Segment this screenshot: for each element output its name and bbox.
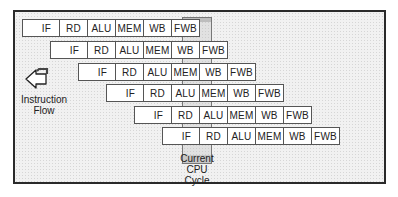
stage-cell-alu: ALU bbox=[115, 41, 144, 59]
stage-cell-wb: WB bbox=[227, 84, 256, 102]
stage-cell-wb: WB bbox=[199, 63, 228, 81]
stage-cell-if: IF bbox=[50, 41, 88, 59]
pipeline-row: IFRDALUMEMWBFWB bbox=[78, 63, 256, 81]
stage-cell-fwb: FWB bbox=[227, 63, 256, 81]
stage-cell-fwb: FWB bbox=[311, 127, 340, 145]
pipeline-row: IFRDALUMEMWBFWB bbox=[162, 127, 340, 145]
stage-cell-alu: ALU bbox=[171, 84, 200, 102]
stage-cell-mem: MEM bbox=[171, 63, 200, 81]
stage-cell-if: IF bbox=[134, 106, 172, 124]
stage-cell-alu: ALU bbox=[87, 19, 116, 37]
pipeline-row: IFRDALUMEMWBFWB bbox=[22, 19, 200, 37]
instruction-flow-label-line1: Instruction bbox=[16, 94, 72, 105]
current-cycle-label-line2: CPU bbox=[172, 164, 222, 175]
stage-cell-if: IF bbox=[106, 84, 144, 102]
pipeline-row: IFRDALUMEMWBFWB bbox=[50, 41, 228, 59]
stage-cell-fwb: FWB bbox=[171, 19, 200, 37]
stage-cell-fwb: FWB bbox=[199, 41, 228, 59]
instruction-flow-label-line2: Flow bbox=[16, 105, 72, 116]
stage-cell-alu: ALU bbox=[227, 127, 256, 145]
stage-cell-wb: WB bbox=[255, 106, 284, 124]
stage-cell-rd: RD bbox=[143, 84, 172, 102]
stage-cell-if: IF bbox=[78, 63, 116, 81]
stage-cell-rd: RD bbox=[87, 41, 116, 59]
stage-cell-wb: WB bbox=[171, 41, 200, 59]
stage-cell-if: IF bbox=[22, 19, 60, 37]
current-cycle-label-line1: Current bbox=[172, 153, 222, 164]
stage-cell-wb: WB bbox=[143, 19, 172, 37]
stage-cell-rd: RD bbox=[59, 19, 88, 37]
stage-cell-mem: MEM bbox=[143, 41, 172, 59]
stage-cell-rd: RD bbox=[115, 63, 144, 81]
stage-cell-mem: MEM bbox=[115, 19, 144, 37]
stage-cell-alu: ALU bbox=[199, 106, 228, 124]
current-cycle-label: Current CPU Cycle bbox=[172, 153, 222, 186]
instruction-flow-label: Instruction Flow bbox=[16, 94, 72, 116]
pipeline-row: IFRDALUMEMWBFWB bbox=[134, 106, 312, 124]
stage-cell-mem: MEM bbox=[255, 127, 284, 145]
arrow-left-outline-icon bbox=[24, 66, 50, 92]
stage-cell-mem: MEM bbox=[227, 106, 256, 124]
stage-cell-rd: RD bbox=[171, 106, 200, 124]
stage-cell-fwb: FWB bbox=[283, 106, 312, 124]
pipeline-row: IFRDALUMEMWBFWB bbox=[106, 84, 284, 102]
stage-cell-wb: WB bbox=[283, 127, 312, 145]
stage-cell-fwb: FWB bbox=[255, 84, 284, 102]
current-cycle-label-line3: Cycle bbox=[172, 175, 222, 186]
stage-cell-if: IF bbox=[162, 127, 200, 145]
stage-cell-alu: ALU bbox=[143, 63, 172, 81]
stage-cell-mem: MEM bbox=[199, 84, 228, 102]
stage-cell-rd: RD bbox=[199, 127, 228, 145]
